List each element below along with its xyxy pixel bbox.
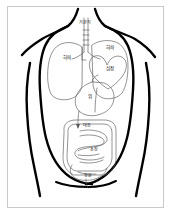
organ-stomach: [75, 75, 114, 116]
label-lung-left: 허파: [106, 44, 115, 51]
body-outline: [22, 9, 155, 196]
organ-heart: [89, 56, 126, 89]
label-large-intestine: 대장: [83, 122, 91, 128]
label-small-intestine: 소장: [90, 146, 98, 152]
diagram-page: 기관지 허파 허파 심장 위 대장 소장 항문: [0, 0, 171, 215]
label-bronchi: 기관지: [79, 19, 91, 25]
label-heart: 심장: [106, 65, 115, 71]
label-rectum: 항문: [84, 172, 92, 178]
organ-lung-right: [48, 43, 86, 100]
anatomy-diagram-svg: 기관지 허파 허파 심장 위 대장 소장 항문: [0, 0, 171, 215]
label-stomach: 위: [88, 93, 92, 100]
label-lung-right: 허파: [63, 54, 72, 61]
